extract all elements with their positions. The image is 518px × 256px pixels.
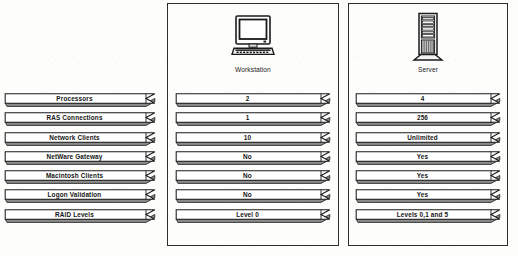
banner-row: NetWare Gateway (4, 151, 156, 164)
row-label: Logon Validation (4, 189, 145, 200)
row-value-workstation: 10 (175, 132, 320, 143)
row-label: Macintosh Clients (4, 170, 145, 181)
column-caption-workstation: Workstation (193, 66, 313, 73)
banner-row: 256 (355, 112, 501, 125)
server-tower-icon (368, 12, 488, 64)
banner-row: No (175, 151, 331, 164)
row-value-server: 4 (355, 93, 490, 104)
row-label: RAID Levels (4, 209, 145, 220)
banner-row: Network Clients (4, 132, 156, 145)
row-value-workstation: 1 (175, 112, 320, 123)
row-value-server: Yes (355, 189, 490, 200)
banner-row: 4 (355, 93, 501, 106)
row-value-server: 256 (355, 112, 490, 123)
workstation-computer-icon (193, 12, 313, 64)
banner-row: Yes (355, 170, 501, 183)
banner-row: Macintosh Clients (4, 170, 156, 183)
row-label: NetWare Gateway (4, 151, 145, 162)
banner-row: Levels 0,1 and 5 (355, 209, 501, 222)
banner-row: Yes (355, 151, 501, 164)
row-value-server: Unlimited (355, 132, 490, 143)
banner-row: Processors (4, 93, 156, 106)
banner-row: Unlimited (355, 132, 501, 145)
column-values-workstation: 2110NoNoNoLevel 0 (175, 93, 331, 222)
banner-row: 1 (175, 112, 331, 125)
banner-row: No (175, 189, 331, 202)
figure-canvas: Workstation (0, 0, 518, 256)
row-value-server: Levels 0,1 and 5 (355, 209, 490, 220)
row-value-workstation: No (175, 189, 320, 200)
column-labels: ProcessorsRAS ConnectionsNetwork Clients… (4, 93, 156, 222)
banner-row: 10 (175, 132, 331, 145)
row-value-workstation: Level 0 (175, 209, 320, 220)
banner-row: 2 (175, 93, 331, 106)
column-header-server: Server (368, 12, 488, 73)
banner-row: Level 0 (175, 209, 331, 222)
column-values-server: 4256UnlimitedYesYesYesLevels 0,1 and 5 (355, 93, 501, 222)
row-value-workstation: No (175, 170, 320, 181)
row-label: Processors (4, 93, 145, 104)
column-header-workstation: Workstation (193, 12, 313, 73)
row-label: Network Clients (4, 132, 145, 143)
row-label: RAS Connections (4, 112, 145, 123)
row-value-workstation: No (175, 151, 320, 162)
row-value-server: Yes (355, 170, 490, 181)
row-value-workstation: 2 (175, 93, 320, 104)
column-caption-server: Server (368, 66, 488, 73)
banner-row: RAID Levels (4, 209, 156, 222)
banner-row: No (175, 170, 331, 183)
banner-row: Yes (355, 189, 501, 202)
banner-row: Logon Validation (4, 189, 156, 202)
row-value-server: Yes (355, 151, 490, 162)
banner-row: RAS Connections (4, 112, 156, 125)
